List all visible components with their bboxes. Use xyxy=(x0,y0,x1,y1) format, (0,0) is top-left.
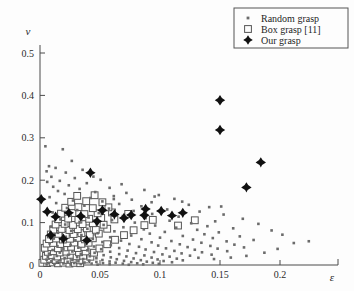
point-our-grasp xyxy=(167,210,177,220)
point-random-grasp xyxy=(50,225,53,228)
point-random-grasp xyxy=(132,210,135,213)
point-random-grasp xyxy=(114,261,117,264)
point-random-grasp xyxy=(48,262,51,265)
point-random-grasp xyxy=(70,230,73,233)
point-random-grasp xyxy=(125,192,128,195)
legend-marker-random-grasp xyxy=(247,17,250,20)
point-random-grasp xyxy=(48,196,51,199)
point-random-grasp xyxy=(101,259,104,262)
y-tick-label-4: 0.4 xyxy=(22,90,35,101)
point-random-grasp xyxy=(201,251,204,254)
point-random-grasp xyxy=(123,260,126,263)
point-our-grasp xyxy=(256,157,266,167)
point-random-grasp xyxy=(150,241,153,244)
point-random-grasp xyxy=(118,253,121,256)
point-random-grasp xyxy=(144,248,147,251)
point-random-grasp xyxy=(74,239,77,242)
y-tick-label-5: 0.5 xyxy=(22,48,35,59)
point-box-grasp xyxy=(112,236,119,243)
point-random-grasp xyxy=(213,258,216,261)
point-random-grasp xyxy=(54,167,57,170)
point-random-grasp xyxy=(143,228,146,231)
point-random-grasp xyxy=(45,170,48,173)
point-random-grasp xyxy=(89,255,92,258)
point-random-grasp xyxy=(173,250,176,253)
point-our-grasp xyxy=(215,125,225,135)
point-random-grasp xyxy=(130,234,133,237)
point-random-grasp xyxy=(57,190,60,193)
point-random-grasp xyxy=(200,241,203,244)
point-random-grasp xyxy=(212,237,215,240)
point-random-grasp xyxy=(165,247,168,250)
y-tick-label-2: 0.2 xyxy=(22,175,35,186)
point-random-grasp xyxy=(76,209,79,212)
point-random-grasp xyxy=(53,237,56,240)
point-random-grasp xyxy=(122,262,125,265)
point-random-grasp xyxy=(232,227,235,230)
point-random-grasp xyxy=(150,256,153,259)
point-random-grasp xyxy=(143,189,146,192)
plot-canvas: 00.050.10.150.200.10.20.30.40.5ενRandom … xyxy=(0,0,354,291)
point-random-grasp xyxy=(93,245,96,248)
point-random-grasp xyxy=(175,226,178,229)
point-box-grasp xyxy=(141,222,148,229)
point-random-grasp xyxy=(150,201,153,204)
point-random-grasp xyxy=(181,200,184,203)
point-random-grasp xyxy=(226,250,229,253)
point-random-grasp xyxy=(230,256,233,259)
point-random-grasp xyxy=(245,255,248,258)
point-random-grasp xyxy=(190,222,193,225)
point-our-grasp xyxy=(241,182,251,192)
point-our-grasp xyxy=(215,95,225,105)
point-random-grasp xyxy=(140,238,143,241)
point-random-grasp xyxy=(48,165,51,168)
point-random-grasp xyxy=(209,245,212,248)
point-random-grasp xyxy=(173,198,176,201)
x-tick-label-1: 0.05 xyxy=(91,269,109,280)
point-random-grasp xyxy=(210,253,213,256)
point-random-grasp xyxy=(87,216,90,219)
point-random-grasp xyxy=(52,185,55,188)
point-random-grasp xyxy=(120,239,123,242)
point-random-grasp xyxy=(257,223,260,226)
point-random-grasp xyxy=(110,256,113,259)
point-random-grasp xyxy=(56,245,59,248)
point-our-grasp xyxy=(36,194,46,204)
point-random-grasp xyxy=(308,240,311,243)
point-random-grasp xyxy=(192,238,195,241)
point-random-grasp xyxy=(110,244,113,247)
point-random-grasp xyxy=(276,248,279,251)
point-random-grasp xyxy=(239,235,242,238)
point-random-grasp xyxy=(77,260,80,263)
point-random-grasp xyxy=(198,210,201,213)
point-random-grasp xyxy=(140,205,143,208)
point-random-grasp xyxy=(138,245,141,248)
point-random-grasp xyxy=(151,213,154,216)
point-random-grasp xyxy=(67,254,70,257)
point-random-grasp xyxy=(93,252,96,255)
point-random-grasp xyxy=(180,252,183,255)
point-random-grasp xyxy=(102,254,105,257)
point-random-grasp xyxy=(116,258,119,261)
point-random-grasp xyxy=(44,145,47,148)
point-random-grasp xyxy=(188,203,191,206)
point-random-grasp xyxy=(45,258,48,261)
point-random-grasp xyxy=(102,224,105,227)
point-random-grasp xyxy=(77,246,80,249)
point-random-grasp xyxy=(55,202,58,205)
point-random-grasp xyxy=(128,263,131,266)
point-random-grasp xyxy=(177,215,180,218)
point-random-grasp xyxy=(203,233,206,236)
point-random-grasp xyxy=(196,229,199,232)
point-random-grasp xyxy=(197,256,200,259)
point-random-grasp xyxy=(168,255,171,258)
point-random-grasp xyxy=(166,208,169,211)
x-tick-label-3: 0.15 xyxy=(211,269,229,280)
point-random-grasp xyxy=(118,203,121,206)
point-random-grasp xyxy=(118,247,121,250)
point-random-grasp xyxy=(149,232,152,235)
point-random-grasp xyxy=(146,260,149,263)
point-random-grasp xyxy=(96,263,99,266)
point-random-grasp xyxy=(71,250,74,253)
point-random-grasp xyxy=(113,198,116,201)
